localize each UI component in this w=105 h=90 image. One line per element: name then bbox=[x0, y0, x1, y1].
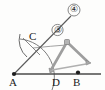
compass-crossbar bbox=[52, 64, 86, 70]
label-callout-3: ③ bbox=[54, 26, 62, 35]
label-point-a: A bbox=[9, 77, 17, 88]
label-callout-4: ④ bbox=[70, 5, 78, 14]
label-point-b: B bbox=[73, 77, 80, 88]
compass-tool bbox=[49, 40, 91, 74]
label-point-c: C bbox=[29, 31, 36, 42]
arc-crossing-at-c bbox=[19, 34, 27, 57]
label-point-d: D bbox=[52, 77, 60, 88]
compass-hinge bbox=[65, 40, 70, 45]
point-b-dot bbox=[76, 70, 80, 74]
geometry-figure: A C D B ③ ④ bbox=[0, 0, 105, 90]
compass-leg-right bbox=[67, 42, 88, 62]
